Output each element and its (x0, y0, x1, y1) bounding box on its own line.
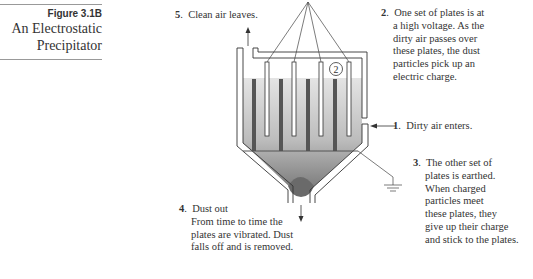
step-2-line-2: a high voltage. As the (381, 20, 484, 33)
step-3-line-3: When charged (413, 183, 519, 196)
label-step-3: 3. The other set of plates is earthed. W… (413, 157, 519, 247)
step-3-line-4: particles meet (413, 195, 519, 208)
step-2-line-1: One set of plates is at (394, 7, 484, 18)
clean-air-arrow (246, 27, 251, 46)
step-4-line-1: Dust out (192, 203, 228, 214)
dust-out-arrow (299, 205, 304, 222)
step-3-line-1: The other set of (426, 157, 492, 168)
step-2-line-6: electric charge. (381, 71, 484, 84)
step-3-line-5: these plates, they (413, 208, 519, 221)
step-2-line-5: particles pick up an (381, 58, 484, 71)
plate-marker-2: 2 (330, 63, 343, 76)
step-4-line-3: plates are vibrated. Dust (179, 229, 293, 242)
step-2-line-4: these plates, the dust (381, 45, 484, 58)
label-step-4: 4. Dust out From time to time the plates… (179, 203, 293, 254)
chamber-gas-fill (243, 78, 362, 197)
step-1-text: Dirty air enters. (406, 120, 472, 131)
step-4-line-4: falls off and is removed. (179, 241, 293, 254)
step-2-line-3: dirty air passes over (381, 33, 484, 46)
label-step-2: 2. One set of plates is at a high voltag… (381, 7, 484, 84)
label-step-1: 1. Dirty air enters. (393, 120, 472, 133)
step-3-line-7: and stick to the plates. (413, 234, 519, 247)
step-5-text: Clean air leaves. (188, 9, 258, 20)
high-voltage-wires (267, 2, 349, 62)
step-4-line-2: From time to time the (179, 216, 293, 229)
step-3-line-6: give up their charge (413, 221, 519, 234)
label-step-5: 5. Clean air leaves. (175, 9, 258, 22)
earth-ground-icon (358, 151, 402, 191)
svg-text:2: 2 (334, 64, 339, 75)
step-3-line-2: plates is earthed. (413, 170, 519, 183)
